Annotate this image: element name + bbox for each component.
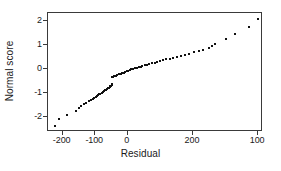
- y-axis-tick: [43, 116, 47, 117]
- data-point: [159, 60, 161, 62]
- data-point: [208, 47, 210, 49]
- y-axis-tick-label: 2: [37, 15, 42, 25]
- y-axis-tick: [43, 68, 47, 69]
- data-point: [162, 59, 164, 61]
- data-point: [176, 56, 178, 58]
- data-point: [214, 43, 216, 45]
- y-axis-tick-label: 1: [37, 39, 42, 49]
- y-axis-tick-label: -1: [34, 87, 42, 97]
- x-axis-tick-label: 200: [185, 135, 200, 145]
- plot-area: [47, 12, 262, 131]
- y-axis-tick: [43, 92, 47, 93]
- data-point: [225, 38, 227, 40]
- data-point: [165, 58, 167, 60]
- y-axis-tick: [43, 20, 47, 21]
- data-point: [78, 107, 80, 109]
- data-point: [188, 53, 190, 55]
- data-point: [184, 54, 186, 56]
- qq-plot-figure: -200-1000200100210-1-2 Residual Normal s…: [0, 0, 281, 171]
- data-point: [198, 50, 200, 52]
- y-axis-tick: [43, 44, 47, 45]
- y-axis-tick-label: 0: [37, 63, 42, 73]
- data-point: [54, 125, 56, 127]
- data-point: [234, 33, 236, 35]
- y-axis-label: Normal score: [4, 11, 15, 131]
- data-point: [169, 58, 171, 60]
- data-point: [202, 49, 204, 51]
- x-axis-tick-label: 100: [250, 135, 265, 145]
- data-point: [156, 61, 158, 63]
- data-point: [211, 45, 213, 47]
- data-point: [248, 26, 250, 28]
- data-point: [172, 57, 174, 59]
- x-axis-tick-label: -200: [53, 135, 71, 145]
- x-axis-label: Residual: [0, 148, 281, 159]
- data-point: [257, 18, 259, 20]
- data-point: [193, 51, 195, 53]
- data-point: [111, 83, 113, 85]
- scatter-series-residual-quantiles: [48, 13, 261, 130]
- data-point: [75, 110, 77, 112]
- data-point: [58, 118, 60, 120]
- data-point: [66, 114, 68, 116]
- x-axis-tick-label: 0: [124, 135, 129, 145]
- x-axis-tick-label: -100: [85, 135, 103, 145]
- data-point: [180, 55, 182, 57]
- y-axis-tick-label: -2: [34, 111, 42, 121]
